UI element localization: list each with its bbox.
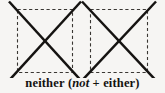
figure-background — [0, 0, 165, 78]
figure-page: neither (not + either) — [0, 0, 165, 93]
caption-close-paren: ) — [135, 76, 139, 90]
caption-headword: neither — [25, 76, 64, 90]
figure-caption: neither (not + either) — [0, 76, 165, 91]
diagram-figure — [0, 0, 165, 78]
crossed-squares-svg — [0, 0, 165, 78]
caption-plus-sign: + — [93, 76, 100, 90]
caption-second-word: either — [103, 76, 135, 90]
caption-italic-word: not — [72, 76, 89, 90]
